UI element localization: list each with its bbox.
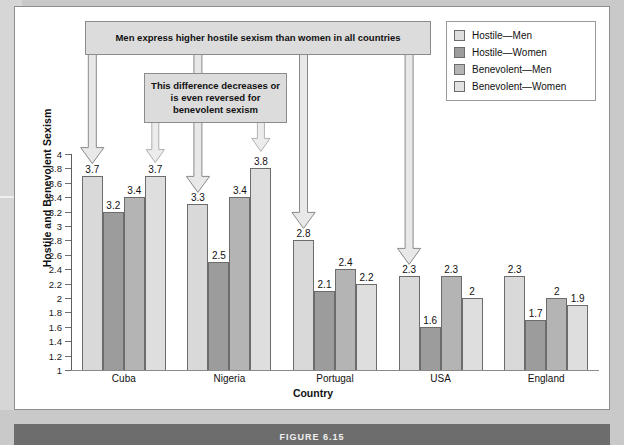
legend-item[interactable]: Hostile—Women — [454, 44, 589, 61]
x-axis-title: Country — [15, 387, 611, 399]
bar-value-label: 3.2 — [106, 200, 120, 211]
bar[interactable]: 3.2 — [103, 212, 124, 370]
bar-value-label: 3.7 — [85, 164, 99, 175]
y-tick-mark — [65, 154, 71, 155]
y-tick-mark — [65, 212, 71, 213]
y-tick-mark — [65, 370, 71, 371]
bar[interactable]: 2.4 — [335, 269, 356, 370]
y-tick-mark — [65, 255, 71, 256]
y-tick: 2.4 — [65, 269, 71, 270]
y-tick: 2.8 — [65, 240, 71, 241]
y-tick-label: 3.6 — [25, 177, 65, 188]
bar[interactable]: 1.9 — [567, 305, 588, 370]
y-tick-mark — [65, 197, 71, 198]
y-tick-label: 4 — [25, 149, 65, 160]
bar[interactable]: 2 — [546, 298, 567, 370]
bar[interactable]: 3.3 — [187, 204, 208, 370]
bar[interactable]: 2.8 — [293, 240, 314, 370]
y-tick: 3.8 — [65, 168, 71, 169]
y-tick-label: 3 — [25, 221, 65, 232]
y-tick-mark — [65, 269, 71, 270]
y-tick-label: 1.4 — [25, 336, 65, 347]
bar-value-label: 2 — [554, 286, 560, 297]
y-tick-mark — [65, 312, 71, 313]
bar-group: 2.31.721.9 — [504, 154, 588, 370]
bar[interactable]: 3.4 — [124, 197, 145, 370]
bar[interactable]: 1.6 — [420, 327, 441, 370]
bar-value-label: 2.2 — [360, 272, 374, 283]
category-label: Cuba — [71, 373, 177, 384]
bar[interactable]: 1.7 — [525, 320, 546, 370]
y-tick-mark — [65, 298, 71, 299]
bar-value-label: 1.7 — [529, 308, 543, 319]
y-tick-label: 2 — [25, 293, 65, 304]
figure-caption: FIGURE 6.15 — [14, 432, 610, 442]
bar-value-label: 3.3 — [191, 192, 205, 203]
legend-item[interactable]: Benevolent—Men — [454, 61, 589, 78]
bar[interactable]: 2.5 — [208, 262, 229, 370]
legend-swatch — [454, 47, 465, 58]
bar-group: 3.73.23.43.7 — [82, 154, 166, 370]
bar[interactable]: 2.1 — [314, 291, 335, 370]
bar[interactable]: 3.8 — [250, 168, 271, 370]
bar[interactable]: 3.7 — [82, 176, 103, 370]
category-label: England — [493, 373, 599, 384]
y-tick-mark — [65, 284, 71, 285]
category-label: USA — [388, 373, 494, 384]
bar-value-label: 2.1 — [318, 279, 332, 290]
bar[interactable]: 3.4 — [229, 197, 250, 370]
y-tick-label: 1.6 — [25, 321, 65, 332]
bar[interactable]: 3.7 — [145, 176, 166, 370]
x-axis-line — [71, 370, 599, 371]
legend-label: Benevolent—Women — [472, 81, 566, 92]
legend-swatch — [454, 30, 465, 41]
y-tick-label: 1 — [25, 365, 65, 376]
bar-value-label: 2.5 — [212, 250, 226, 261]
legend-label: Benevolent—Men — [472, 64, 552, 75]
bar-value-label: 3.4 — [233, 185, 247, 196]
bar-group: 2.31.62.32 — [399, 154, 483, 370]
bar-value-label: 2.3 — [402, 264, 416, 275]
y-tick-label: 2.8 — [25, 235, 65, 246]
figure-page: Hostile and Benevolent Sexism Country 43… — [0, 0, 624, 445]
bar-value-label: 1.6 — [423, 315, 437, 326]
callout-arrow — [81, 55, 104, 164]
y-tick: 1 — [65, 370, 71, 371]
callout-box-hostile: Men express higher hostile sexism than w… — [85, 21, 431, 55]
y-axis-line — [71, 154, 72, 370]
bar[interactable]: 2.3 — [504, 276, 525, 370]
y-tick-mark — [65, 240, 71, 241]
bar-value-label: 1.9 — [571, 293, 585, 304]
bar[interactable]: 2.3 — [399, 276, 420, 370]
bar[interactable]: 2 — [462, 298, 483, 370]
y-tick: 4 — [65, 154, 71, 155]
bar-value-label: 3.7 — [148, 164, 162, 175]
bar-group: 2.82.12.42.2 — [293, 154, 377, 370]
y-tick-mark — [65, 226, 71, 227]
y-tick-label: 3.4 — [25, 192, 65, 203]
legend-label: Hostile—Women — [472, 47, 547, 58]
bar-value-label: 2.3 — [508, 264, 522, 275]
bar[interactable]: 2.3 — [441, 276, 462, 370]
bar-value-label: 3.4 — [127, 185, 141, 196]
y-tick: 3 — [65, 226, 71, 227]
callout-arrow-small — [252, 123, 270, 151]
category-label: Nigeria — [177, 373, 283, 384]
y-tick-label: 2.2 — [25, 278, 65, 289]
bar[interactable]: 2.2 — [356, 284, 377, 370]
legend-item[interactable]: Hostile—Men — [454, 27, 589, 44]
y-tick: 1.2 — [65, 356, 71, 357]
y-tick-label: 2.6 — [25, 249, 65, 260]
legend-item[interactable]: Benevolent—Women — [454, 78, 589, 95]
y-tick: 1.4 — [65, 341, 71, 342]
y-tick-label: 3.2 — [25, 206, 65, 217]
legend: Hostile—MenHostile—WomenBenevolent—MenBe… — [446, 21, 596, 101]
y-tick-mark — [65, 327, 71, 328]
bar-value-label: 2.4 — [339, 257, 353, 268]
y-tick-mark — [65, 356, 71, 357]
bar-value-label: 3.8 — [254, 156, 268, 167]
y-tick: 1.8 — [65, 312, 71, 313]
y-tick-mark — [65, 341, 71, 342]
y-tick-label: 2.4 — [25, 264, 65, 275]
y-tick: 1.6 — [65, 327, 71, 328]
